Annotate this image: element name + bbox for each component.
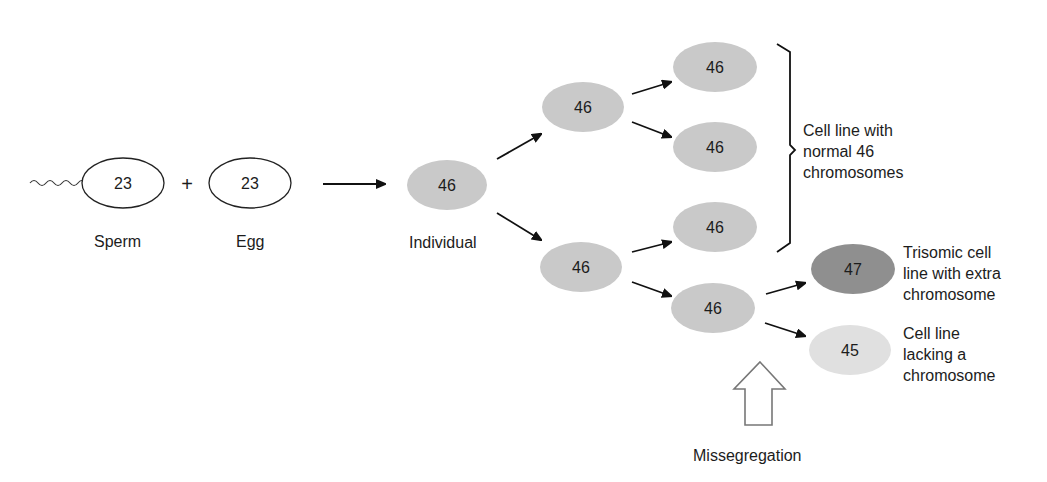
granddaughter-cell-missegregating: 46 bbox=[671, 283, 755, 333]
cell-count: 46 bbox=[706, 59, 724, 76]
daughter-cell-upper: 46 bbox=[542, 82, 624, 132]
daughter-count: 46 bbox=[572, 259, 590, 276]
egg-cell: 23 bbox=[209, 158, 291, 208]
egg-label: Egg bbox=[236, 231, 264, 252]
plus-sign: + bbox=[181, 173, 193, 195]
arrow-icon bbox=[497, 213, 541, 240]
cell-lineage-diagram: 23 + 23 46 46 46 46 46 46 46 bbox=[0, 0, 1047, 482]
label-line: normal 46 bbox=[803, 141, 903, 162]
normal-cell-line-label: Cell line with normal 46 chromosomes bbox=[803, 120, 903, 183]
sperm-tail-icon bbox=[30, 181, 84, 186]
arrow-icon bbox=[497, 134, 541, 159]
arrow-icon bbox=[632, 122, 671, 137]
arrow-icon bbox=[765, 323, 805, 336]
arrow-icon bbox=[632, 82, 671, 94]
cell-count: 46 bbox=[704, 300, 722, 317]
granddaughter-cell: 46 bbox=[673, 202, 757, 252]
trisomic-label: Trisomic cell line with extra chromosome bbox=[903, 242, 1001, 305]
granddaughter-cell: 46 bbox=[673, 42, 757, 92]
monosomic-label: Cell line lacking a chromosome bbox=[903, 323, 995, 386]
sperm-label: Sperm bbox=[94, 231, 141, 252]
cell-count: 45 bbox=[841, 342, 859, 359]
label-line: chromosome bbox=[903, 284, 1001, 305]
monosomic-cell: 45 bbox=[809, 325, 891, 375]
label-line: Cell line bbox=[903, 323, 995, 344]
sperm-count: 23 bbox=[114, 175, 132, 192]
label-line: line with extra bbox=[903, 263, 1001, 284]
bracket-icon bbox=[777, 44, 795, 252]
label-line: chromosome bbox=[903, 365, 995, 386]
cell-count: 47 bbox=[844, 261, 862, 278]
label-line: Trisomic cell bbox=[903, 242, 1001, 263]
individual-cell: 46 bbox=[407, 160, 487, 210]
arrow-icon bbox=[766, 283, 805, 294]
trisomic-cell: 47 bbox=[811, 244, 895, 294]
cell-count: 46 bbox=[706, 219, 724, 236]
missegregation-label: Missegregation bbox=[693, 445, 802, 466]
individual-label: Individual bbox=[409, 232, 477, 253]
label-line: lacking a bbox=[903, 344, 995, 365]
daughter-cell-lower: 46 bbox=[540, 242, 622, 292]
label-line: Cell line with bbox=[803, 120, 903, 141]
arrow-icon bbox=[632, 282, 671, 296]
label-line: chromosomes bbox=[803, 162, 903, 183]
sperm-cell: 23 bbox=[30, 158, 164, 208]
arrow-icon bbox=[632, 242, 671, 252]
cell-count: 46 bbox=[706, 139, 724, 156]
individual-count: 46 bbox=[438, 177, 456, 194]
granddaughter-cell: 46 bbox=[673, 122, 757, 172]
missegregation-arrow-icon bbox=[734, 362, 785, 425]
egg-count: 23 bbox=[241, 175, 259, 192]
daughter-count: 46 bbox=[574, 99, 592, 116]
